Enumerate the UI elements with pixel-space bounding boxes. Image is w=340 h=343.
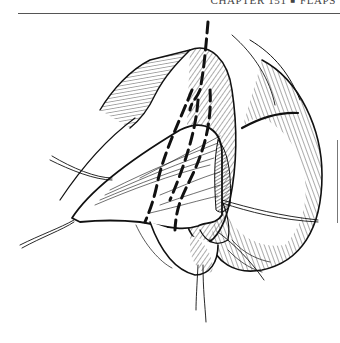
chapter-label: CHAPTER 151 xyxy=(211,0,287,6)
surgical-illustration xyxy=(0,16,340,343)
chapter-title: FLAPS xyxy=(300,0,336,6)
separator-square: ■ xyxy=(291,0,296,5)
running-head: CHAPTER 151■FLAPS xyxy=(211,0,336,6)
retracted-flap xyxy=(72,125,222,228)
header-rule xyxy=(18,13,340,14)
